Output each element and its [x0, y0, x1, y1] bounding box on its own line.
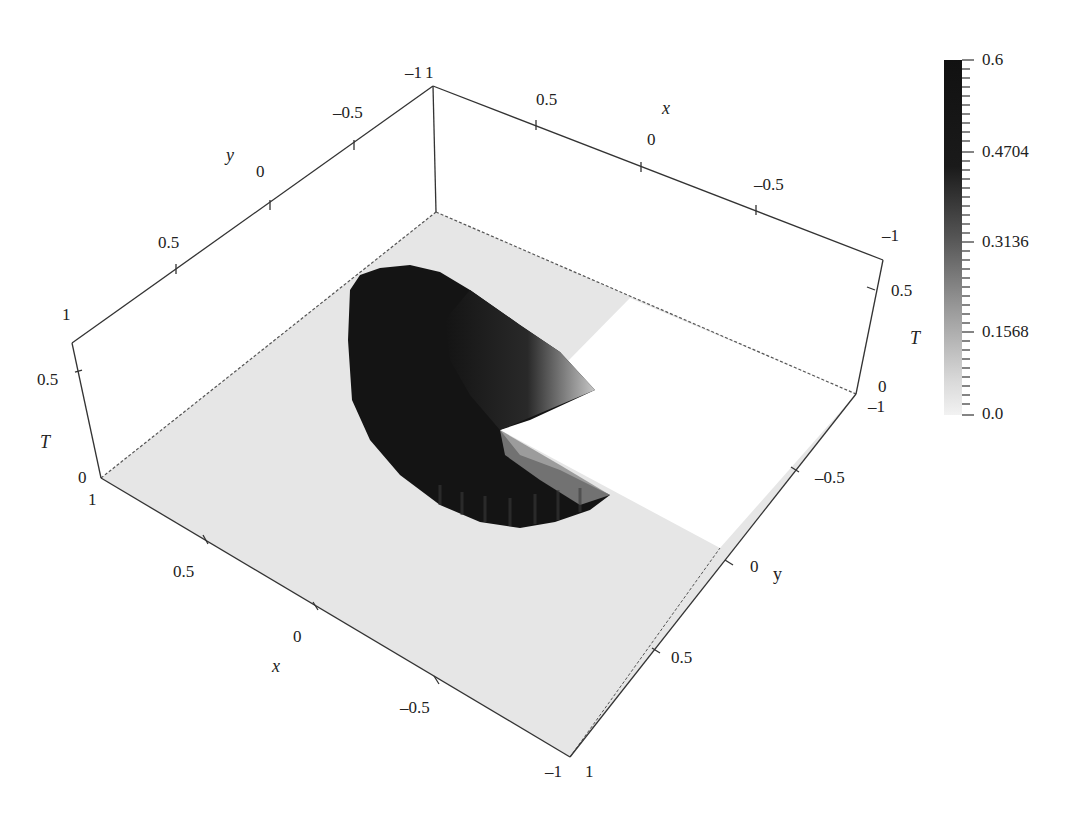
- axis-label-y: y: [226, 145, 234, 166]
- axis-label-T: T: [910, 328, 920, 349]
- colorbar-tick-label: 0.1568: [982, 322, 1029, 342]
- tick-label: –0.5: [754, 175, 784, 195]
- tick-label: 0: [750, 557, 759, 577]
- colorbar-tick-label: 0.4704: [982, 142, 1029, 162]
- tick-label: 0: [256, 162, 265, 182]
- tick-label: 0.5: [536, 90, 557, 110]
- tick-label: 1: [88, 490, 97, 510]
- tick-label: –0.5: [333, 103, 363, 123]
- tick-label: 0.5: [891, 281, 912, 301]
- axis-label-T: T: [40, 432, 50, 453]
- tick-label: –1: [405, 63, 422, 83]
- colorbar-ticks: [962, 58, 982, 418]
- axis-label-y: y: [773, 564, 782, 585]
- axis-label-x: x: [662, 98, 670, 119]
- axis-label-x: x: [272, 656, 280, 677]
- tick-label: 0: [878, 377, 887, 397]
- tick-label: –1: [882, 226, 899, 246]
- tick-label: 0: [78, 468, 87, 488]
- tick-label: 0: [293, 627, 302, 647]
- tick-label: 0.5: [158, 233, 179, 253]
- colorbar-tick-label: 0.3136: [982, 232, 1029, 252]
- tick-label: 1: [62, 305, 71, 325]
- tick-label: 0.5: [37, 370, 58, 390]
- tick-label: –0.5: [815, 468, 845, 488]
- tick-label: –1: [545, 762, 562, 782]
- tick-label: 1: [585, 762, 594, 782]
- tick-label: 0: [647, 130, 656, 150]
- tick-label: –0.5: [400, 698, 430, 718]
- tick-label: –1: [868, 397, 885, 417]
- surface-plot: [0, 0, 1071, 817]
- colorbar: [944, 60, 962, 415]
- tick-label: 1: [425, 63, 434, 83]
- colorbar-tick-label: 0.0: [982, 404, 1003, 424]
- colorbar-tick-label: 0.6: [982, 50, 1003, 70]
- tick-label: 0.5: [671, 648, 692, 668]
- tick-label: 0.5: [173, 562, 194, 582]
